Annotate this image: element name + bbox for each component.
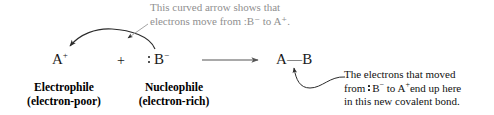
lone-pair-dots-inline-icon [368, 83, 372, 93]
label-nucleophile: Nucleophile (electron-rich) [122, 80, 226, 108]
product-atom-a: A [276, 51, 287, 67]
label-electrophile-subtitle: (electron-poor) [12, 94, 116, 108]
label-electrophile: Electrophile (electron-poor) [12, 80, 116, 108]
reactant-a-charge: + [63, 50, 68, 60]
product-covalent-bond: A—B [276, 52, 312, 67]
curved-electron-arrow [70, 29, 155, 49]
right-annotation-line-2-post: end up here [410, 82, 461, 94]
reactant-b-charge: − [164, 50, 169, 60]
right-annotation-line-2: from B− to A+end up here [344, 82, 494, 96]
top-annotation-leader-line [128, 24, 148, 38]
product-atom-b: B [302, 51, 312, 67]
label-nucleophile-subtitle: (electron-rich) [122, 94, 226, 108]
product-bond-dash: — [287, 51, 302, 67]
right-annotation-line-1: The electrons that moved [344, 68, 494, 82]
right-annotation-line-3: in this new covalent bond. [344, 95, 494, 109]
right-annotation-mid: to A [384, 82, 405, 94]
top-annotation-line-1: This curved arrow shows that [150, 1, 360, 15]
reactant-nucleophile: B− [148, 52, 169, 67]
lone-pair-dots-icon [148, 53, 153, 66]
top-annotation-text: This curved arrow shows that electrons m… [150, 1, 360, 28]
plus-sign: + [117, 53, 125, 68]
product-bond-leader-line [294, 68, 345, 88]
right-annotation-line-2-pre: from [344, 82, 368, 94]
reactant-electrophile: A+ [52, 52, 68, 67]
reactant-b-symbol: B [154, 51, 164, 67]
right-annotation-text: The electrons that moved from B− to A+en… [344, 68, 494, 109]
reactant-a-symbol: A [52, 51, 63, 67]
mechanism-diagram: This curved arrow shows that electrons m… [0, 0, 494, 115]
label-electrophile-title: Electrophile [12, 80, 116, 94]
top-annotation-line-2: electrons move from :B⁻ to A⁺. [150, 15, 360, 29]
label-nucleophile-title: Nucleophile [122, 80, 226, 94]
